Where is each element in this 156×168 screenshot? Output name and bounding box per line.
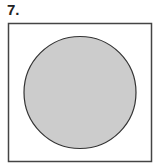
shaded-circle	[24, 37, 136, 149]
figure	[0, 0, 156, 168]
